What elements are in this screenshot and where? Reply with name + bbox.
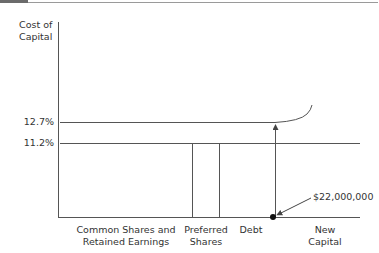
- y-axis-label-line1: Cost of: [19, 19, 52, 31]
- y-axis-label-line2: Capital: [19, 31, 52, 43]
- category-new-capital-line1: New: [300, 224, 350, 236]
- category-preferred-shares-line2: Shares: [180, 236, 232, 248]
- category-new-capital-line2: Capital: [300, 236, 350, 248]
- level-label-11-2: 11.2%: [10, 137, 54, 149]
- category-common-shares: Common Shares and Retained Earnings: [62, 224, 190, 248]
- category-common-shares-line1: Common Shares and: [62, 224, 190, 236]
- breakpoint-label: $22,000,000: [313, 191, 373, 203]
- marginal-cost-line-high: [60, 105, 312, 123]
- category-preferred-shares-line1: Preferred: [180, 224, 232, 236]
- category-common-shares-line2: Retained Earnings: [62, 236, 190, 248]
- breakpoint-label-pointer: [279, 198, 311, 214]
- category-debt: Debt: [236, 224, 266, 236]
- breakpoint-dot: [270, 214, 276, 220]
- category-debt-line1: Debt: [236, 224, 266, 236]
- cost-of-capital-diagram: [0, 0, 379, 253]
- level-label-12-7: 12.7%: [10, 116, 54, 128]
- category-new-capital: New Capital: [300, 224, 350, 248]
- y-axis-label: Cost of Capital: [19, 19, 52, 43]
- category-preferred-shares: Preferred Shares: [180, 224, 232, 248]
